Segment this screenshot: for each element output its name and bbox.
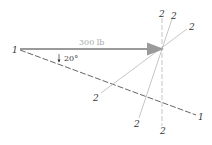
axis-2-steep-bottom-label: 2: [133, 119, 140, 129]
force-label: 300 lb: [79, 38, 105, 47]
diagram-svg: 1 1 300 lb 20° 2 2 2 2 2 2: [0, 0, 212, 145]
axis-2-vertical-bottom-label: 2: [159, 126, 166, 136]
angle-label: 20°: [64, 54, 78, 63]
axis-2-shallow-top-label: 2: [188, 22, 195, 32]
axis-2-2-steep-line: [139, 19, 172, 118]
axis-1-1-line: [20, 50, 196, 115]
axis-1-start-label: 1: [12, 45, 18, 55]
axis-2-vertical-top-label: 2: [158, 9, 165, 19]
force-diagram: 1 1 300 lb 20° 2 2 2 2 2 2: [0, 0, 212, 145]
axis-2-shallow-bottom-label: 2: [92, 93, 99, 103]
axis-2-2-shallow-line: [101, 29, 187, 93]
axis-1-end-label: 1: [198, 112, 204, 122]
axis-2-steep-top-label: 2: [170, 11, 177, 21]
angle-arrowhead-icon: [58, 60, 61, 63]
